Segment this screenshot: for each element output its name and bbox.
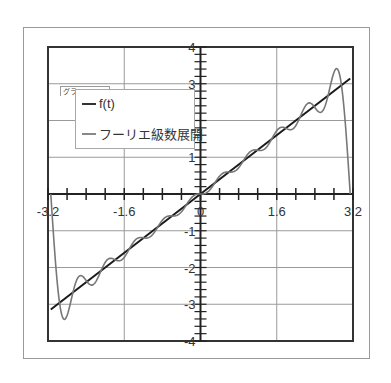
- y-tick-label: 1: [188, 150, 195, 165]
- legend-item-f-t[interactable]: f(t): [82, 96, 115, 111]
- y-tick-label: 4: [188, 40, 195, 55]
- legend-label: フーリエ級数展開: [99, 124, 203, 143]
- x-tick-label: -1.6: [113, 204, 135, 219]
- legend-item-fourier[interactable]: フーリエ級数展開: [82, 124, 203, 143]
- y-tick-label: -1: [184, 224, 196, 239]
- legend-swatch-line-icon: [82, 103, 96, 105]
- y-tick-label: -4: [184, 334, 196, 349]
- x-tick-label: -3.2: [37, 204, 59, 219]
- x-tick-label: 0: [197, 204, 204, 219]
- legend[interactable]: f(t) フーリエ級数展開: [75, 89, 195, 149]
- y-tick-label: -2: [184, 261, 196, 276]
- y-tick-label: -3: [184, 297, 196, 312]
- plot-svg: -3.2-1.601.63.2-4-3-2-11234: [24, 28, 371, 360]
- legend-swatch-line-icon: [82, 133, 96, 135]
- x-tick-label: 1.6: [268, 204, 286, 219]
- chart-area[interactable]: -3.2-1.601.63.2-4-3-2-11234 グラフ エリア f(t)…: [23, 27, 370, 359]
- legend-label: f(t): [99, 96, 115, 111]
- x-tick-label: 3.2: [344, 204, 362, 219]
